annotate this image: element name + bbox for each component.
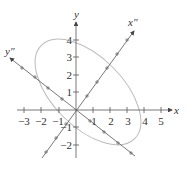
x-tick-label: 5 xyxy=(158,115,164,127)
x-tick-label: 1 xyxy=(91,115,97,127)
rotated-y-axis xyxy=(10,58,135,156)
y-tick-label: −1 xyxy=(60,121,72,133)
y-tick-label: 2 xyxy=(67,69,73,81)
ellipse-curve xyxy=(17,21,160,164)
y-tick-label: 3 xyxy=(67,51,73,63)
diagram-canvas: −3 −2 −1 1 2 3 4 5 4 3 2 1 −1 −2 x y x″ … xyxy=(0,0,191,171)
x-tick-label: −2 xyxy=(35,115,47,127)
rotated-x-axis-label: x″ xyxy=(127,16,138,28)
y-tick-label: 4 xyxy=(67,34,73,46)
x-axis-label: x xyxy=(173,104,179,116)
x-tick-label: 4 xyxy=(142,115,148,127)
x-tick-label: 2 xyxy=(108,115,114,127)
y-axis-label: y xyxy=(73,8,79,20)
rotated-y-axis-label: y″ xyxy=(4,45,15,57)
y-tick-label: 1 xyxy=(67,86,73,98)
x-tick-label: 3 xyxy=(125,115,131,127)
x-tick-label: −3 xyxy=(18,115,30,127)
y-tick-label: −2 xyxy=(60,139,72,151)
